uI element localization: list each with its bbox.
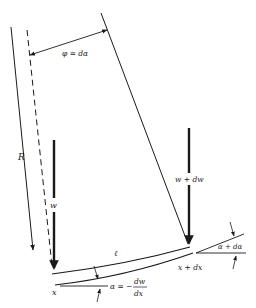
load-w-label: w: [50, 201, 57, 210]
angle-phi-label: φ = dα: [62, 49, 88, 58]
slope-left-prefix: α = −: [110, 282, 132, 291]
pos-xdx-label: x + dx: [178, 263, 203, 272]
right-angle-arrow-bottom: [233, 256, 236, 269]
beam-lower-edge: [55, 253, 193, 285]
rotated-radius-line: [101, 13, 188, 244]
load-wdw-label: w + dw: [175, 175, 204, 184]
right-angle-arrow-top: [230, 222, 234, 236]
radius-line: [11, 27, 33, 250]
length-label: ℓ: [114, 249, 118, 258]
slope-left-denominator: dx: [134, 289, 144, 298]
beam-diagram: R φ = dα w w + dw ℓ x α = − dw dx x + dx…: [0, 0, 256, 308]
pos-x-label: x: [52, 288, 57, 297]
left-angle-arrow-bottom: [97, 289, 100, 302]
radius-label: R: [17, 152, 25, 162]
slope-left-numerator: dw: [134, 277, 146, 286]
slope-right-label: α + dα: [218, 243, 243, 251]
